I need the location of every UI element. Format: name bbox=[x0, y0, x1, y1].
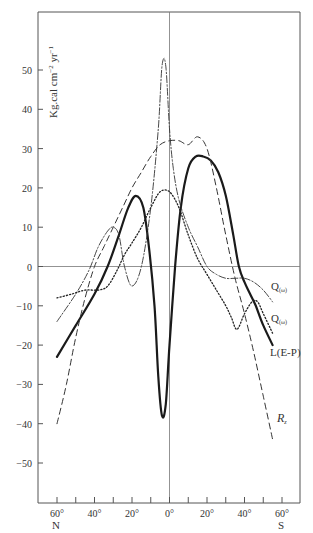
legend-label-subscript: z bbox=[283, 419, 287, 425]
series-q-dotted bbox=[57, 190, 273, 333]
series-r-z bbox=[57, 137, 273, 440]
x-tick-label: 20° bbox=[125, 508, 139, 519]
legend-label: Q(ω) bbox=[271, 280, 287, 294]
x-tick-label: 60° bbox=[275, 508, 289, 519]
plot-frame bbox=[38, 12, 300, 503]
y-tick-label: 0 bbox=[27, 262, 32, 273]
x-tick-label: 60° bbox=[50, 508, 64, 519]
y-tick-label: −30 bbox=[16, 379, 32, 390]
legend-label-subscript: (ω) bbox=[279, 319, 287, 326]
legend-labels: Q(ω)Q(ω)L(E-P)Rz bbox=[270, 280, 301, 425]
y-axis-label-text: yr bbox=[47, 53, 59, 65]
y-tick-label: −20 bbox=[16, 340, 32, 351]
x-hemisphere-label: N bbox=[52, 519, 60, 531]
y-axis-label: Kg.cal cm−2 yr−1 bbox=[47, 45, 59, 118]
x-tick-label: 20° bbox=[200, 508, 214, 519]
y-tick-label: 50 bbox=[22, 65, 32, 76]
y-axis-label-text: Kg.cal cm bbox=[47, 72, 59, 118]
x-tick-label: 0° bbox=[165, 508, 174, 519]
series-l-e-p bbox=[57, 155, 273, 417]
y-tick-label: 20 bbox=[22, 183, 32, 194]
y-tick-label: −10 bbox=[16, 301, 32, 312]
y-tick-label: −50 bbox=[16, 458, 32, 469]
legend-label: Q(ω) bbox=[271, 312, 287, 326]
x-tick-label: 40° bbox=[238, 508, 252, 519]
series-group bbox=[57, 58, 273, 439]
y-tick-label: 10 bbox=[22, 222, 32, 233]
y-tick-label: 40 bbox=[22, 104, 32, 115]
y-tick-label: 30 bbox=[22, 144, 32, 155]
y-tick-label: −40 bbox=[16, 419, 32, 430]
legend-label: L(E-P) bbox=[270, 346, 301, 359]
legend-label: Rz bbox=[276, 411, 287, 425]
chart-container: 50403020100−10−20−30−40−5060°N40°20°0°20… bbox=[0, 0, 313, 533]
y-axis-label-superscript: −1 bbox=[47, 45, 55, 53]
legend-label-subscript: (ω) bbox=[279, 287, 287, 294]
line-chart: 50403020100−10−20−30−40−5060°N40°20°0°20… bbox=[0, 0, 313, 533]
x-hemisphere-label: S bbox=[278, 519, 284, 531]
x-tick-label: 40° bbox=[88, 508, 102, 519]
